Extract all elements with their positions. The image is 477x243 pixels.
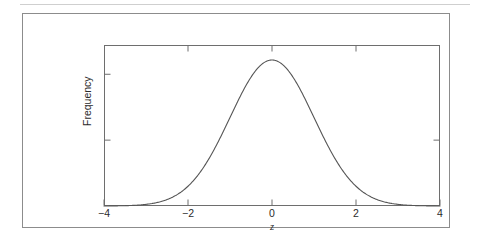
x-axis-title: z	[270, 222, 274, 233]
plot-area	[104, 45, 440, 206]
page-top-rule	[20, 4, 470, 5]
x-tick-label: −4	[98, 208, 110, 219]
plot-svg	[104, 45, 440, 206]
x-tick-label: 4	[437, 208, 443, 219]
figure-frame: −4−2024 z Frequency	[22, 13, 450, 228]
axis-ticks	[104, 46, 440, 206]
axes-box	[105, 46, 440, 206]
normal-curve	[104, 60, 440, 206]
y-axis-title: Frequency	[82, 76, 93, 126]
x-tick-label: −2	[182, 208, 194, 219]
x-tick-label: 0	[269, 208, 275, 219]
x-tick-label: 2	[353, 208, 359, 219]
